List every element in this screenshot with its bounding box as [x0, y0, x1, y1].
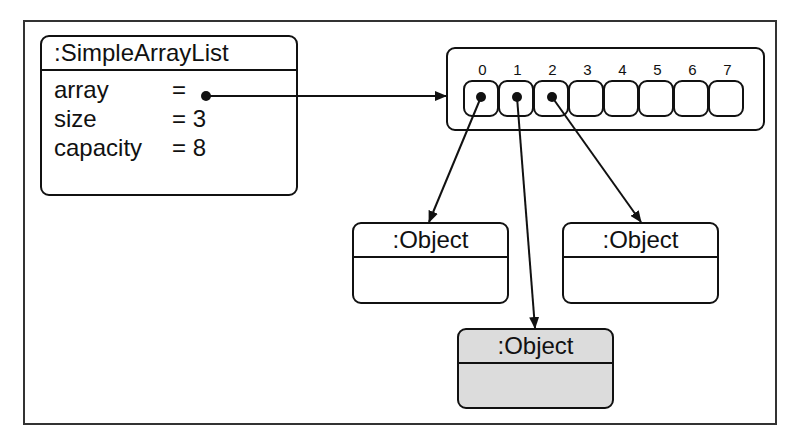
array-pointer-arrow: [201, 91, 446, 101]
reference-arrows: [0, 0, 801, 447]
cell1-arrow: [512, 92, 535, 328]
cell0-arrow: [429, 92, 486, 222]
cell2-arrow: [547, 92, 641, 222]
